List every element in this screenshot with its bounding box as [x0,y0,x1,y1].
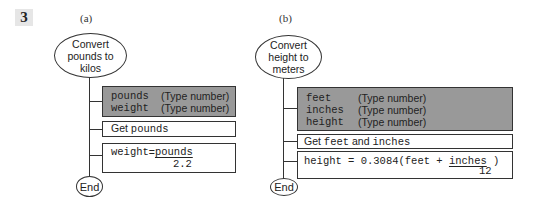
var-name: pounds [111,90,161,102]
panel-a-start-oval: Convert pounds to kilos [54,33,127,78]
get-var: inches [372,136,410,148]
exercise-number: 3 [15,9,33,26]
connector [283,108,298,109]
start-line: pounds to [67,50,113,62]
end-label: End [274,181,294,193]
get-label: Get [111,122,131,134]
panel-a-assign-box: weight = pounds 2.2 [102,143,236,173]
fraction-numerator: pounds [155,146,193,158]
var-name: feet [306,92,358,104]
get-var: feet [324,136,349,148]
get-and: and [349,135,372,147]
panel-b-label: (b) [279,12,292,24]
connector [89,129,103,130]
fraction-denominator: 12 [479,167,492,177]
panel-a-get-box: Get pounds [102,121,236,137]
var-type: (Type number) [358,92,426,104]
var-name: height [306,116,358,128]
end-label: End [80,181,100,193]
panel-a-spine [89,77,90,177]
start-line: Convert [268,39,308,51]
start-line: Convert [67,38,113,50]
start-line: height to [268,51,308,63]
connector [89,155,103,156]
get-var: pounds [131,123,169,135]
start-line: meters [268,63,308,75]
panel-b-spine [283,78,284,179]
start-line: kilos [67,62,113,74]
panel-a-label: (a) [80,12,92,24]
assign-lhs: weight [111,146,149,158]
get-label: Get [304,135,324,147]
var-name: weight [111,102,161,114]
panel-b-end-oval: End [270,178,298,196]
connector [283,161,298,162]
panel-a-end-oval: End [76,176,103,197]
connector [283,141,298,142]
panel-a-declare-box: pounds(Type number) weight(Type number) [102,86,236,117]
var-type: (Type number) [161,90,229,102]
panel-b-get-box: Get feet and inches [297,134,513,149]
assign-expression: height = 0.3084(feet + [304,155,449,167]
flowchart-figure: 3 (a) Convert pounds to kilos pounds(Typ… [0,0,533,209]
var-name: inches [306,104,358,116]
connector [89,101,103,102]
var-type: (Type number) [161,102,229,114]
panel-b-assign-box: height = 0.3084(feet + inches ) 12 [297,151,513,179]
panel-b-start-oval: Convert height to meters [255,35,322,79]
var-type: (Type number) [358,104,426,116]
var-type: (Type number) [358,116,426,128]
panel-b-declare-box: feet(Type number) inches(Type number) he… [297,87,513,131]
fraction-denominator: 2.2 [173,158,192,170]
